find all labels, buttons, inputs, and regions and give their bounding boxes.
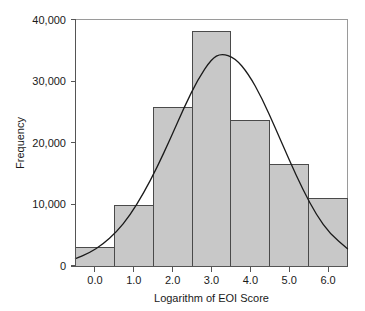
bar-3	[192, 32, 231, 266]
bar-1	[114, 206, 153, 266]
x-tick-label-5: 5.0	[282, 274, 297, 286]
bar-6	[309, 199, 348, 266]
bar-4	[231, 121, 270, 266]
y-axis-ticks	[71, 20, 76, 267]
y-tick-label-40000: 40,000	[32, 14, 66, 26]
bar-2	[153, 108, 192, 266]
y-tick-label-10000: 10,000	[32, 198, 66, 210]
chart-canvas: 40,000 30,000 20,000 10,000 0	[0, 0, 365, 311]
x-tick-label-2: 2.0	[165, 274, 180, 286]
y-tick-label-30000: 30,000	[32, 75, 66, 87]
y-tick-label-0: 0	[60, 260, 66, 272]
bar-5	[270, 164, 309, 266]
x-tick-label-0: 0.0	[87, 274, 102, 286]
x-axis-ticks	[95, 267, 328, 272]
x-tick-label-4: 4.0	[243, 274, 258, 286]
y-tick-label-20000: 20,000	[32, 137, 66, 149]
y-axis-title: Frequency	[14, 117, 26, 169]
x-tick-label-1: 1.0	[126, 274, 141, 286]
x-tick-label-6: 6.0	[320, 274, 335, 286]
x-axis-title: Logarithm of EOI Score	[154, 292, 269, 304]
histogram-figure: 40,000 30,000 20,000 10,000 0	[0, 0, 365, 311]
x-tick-label-3: 3.0	[204, 274, 219, 286]
